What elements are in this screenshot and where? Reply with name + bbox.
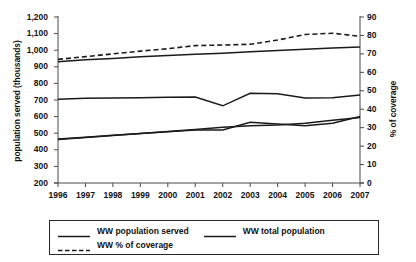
series-line: [58, 33, 360, 59]
series-line: [58, 47, 360, 62]
series-lines: [58, 33, 360, 139]
solid-line-icon: [203, 227, 237, 236]
dashed-line-icon: [57, 241, 91, 250]
chart-legend: WW population servedWW total population …: [49, 220, 379, 255]
legend-item: WW % of coverage: [57, 240, 173, 250]
legend-label: WW total population: [243, 226, 325, 236]
series-line: [58, 117, 360, 139]
legend-label: WW % of coverage: [97, 240, 173, 250]
legend-item: WW population served: [57, 226, 189, 236]
series-line: [58, 93, 360, 105]
solid-line-icon: [57, 227, 91, 236]
chart-container: population served (thousands) % of cover…: [0, 0, 416, 262]
legend-label: WW population served: [97, 226, 189, 236]
legend-item: WW total population: [203, 226, 325, 236]
